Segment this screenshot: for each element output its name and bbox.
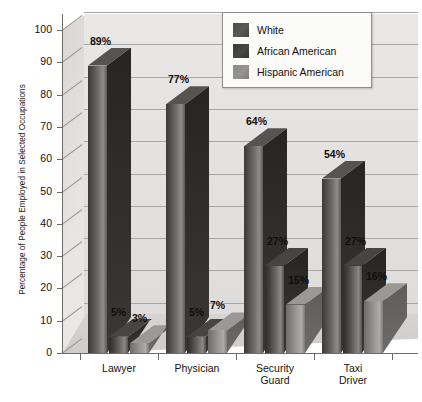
bar-value-label: 3%: [132, 312, 147, 324]
bar-front-face: [109, 337, 128, 353]
y-tick-mark: [57, 159, 63, 160]
legend-item: African American: [233, 42, 336, 60]
y-tick-label: 60: [22, 152, 52, 164]
y-axis-line: [62, 14, 63, 354]
bar-top-face: [265, 266, 284, 267]
bar-top-face: [166, 104, 185, 105]
bar-top-face: [109, 337, 128, 338]
y-tick-mark: [57, 321, 63, 322]
bar-value-label: 27%: [345, 235, 366, 247]
bar: [187, 337, 206, 353]
bar-front-face: [244, 146, 263, 353]
bar: [265, 266, 284, 353]
bar-value-label: 54%: [324, 148, 345, 160]
bar: [208, 330, 227, 353]
bar-front-face: [364, 301, 383, 353]
bar: [88, 66, 107, 353]
bar-front-face: [88, 66, 107, 353]
y-tick-mark: [57, 30, 63, 31]
bar-value-label: 7%: [210, 299, 225, 311]
legend-color-swatch: [233, 65, 249, 79]
bar-value-label: 15%: [288, 274, 309, 286]
y-tick-mark: [57, 62, 63, 63]
bar-top-face: [322, 179, 341, 180]
y-tick-label: 50: [22, 185, 52, 197]
legend-item-label: White: [257, 24, 284, 36]
x-category-label-line: Physician: [158, 363, 236, 375]
x-category-label: TaxiDriver: [314, 363, 392, 386]
bar-top-face: [208, 330, 227, 331]
bar-value-label: 77%: [168, 73, 189, 85]
x-axis-line: [62, 353, 418, 354]
bar-top-face: [364, 301, 383, 302]
bar-chart: Percentage of People Employed in Selecte…: [0, 0, 422, 402]
y-tick-mark: [57, 353, 63, 354]
y-tick-label: 40: [22, 217, 52, 229]
x-category-label: Lawyer: [80, 363, 158, 375]
bar-top-face: [343, 266, 362, 267]
y-tick-label: 90: [22, 55, 52, 67]
x-category-label: SecurityGuard: [236, 363, 314, 386]
bar-value-label: 27%: [267, 235, 288, 247]
bar-value-label: 5%: [189, 306, 204, 318]
x-tick-mark: [158, 354, 159, 360]
x-category-label-line: Guard: [236, 375, 314, 387]
y-tick-mark: [57, 192, 63, 193]
bar: [166, 104, 185, 353]
bar: [343, 266, 362, 353]
bar-value-label: 64%: [246, 115, 267, 127]
y-tick-mark: [57, 224, 63, 225]
chart-legend: WhiteAfrican AmericanHispanic American: [222, 12, 372, 88]
x-tick-mark: [314, 354, 315, 360]
bar: [109, 337, 128, 353]
bar-front-face: [265, 266, 284, 353]
bar-top-face: [187, 337, 206, 338]
bar-top-face: [130, 343, 149, 344]
bar-front-face: [322, 179, 341, 353]
legend-color-swatch: [233, 44, 249, 58]
y-tick-label: 20: [22, 281, 52, 293]
bar-top-face: [286, 305, 305, 306]
bar-front-face: [166, 104, 185, 353]
bar: [244, 146, 263, 353]
legend-color-swatch: [233, 23, 249, 37]
legend-item: Hispanic American: [233, 63, 344, 81]
bar-front-face: [208, 330, 227, 353]
bar-front-face: [187, 337, 206, 353]
y-tick-label: 0: [22, 346, 52, 358]
y-tick-mark: [57, 256, 63, 257]
y-tick-label: 80: [22, 88, 52, 100]
bar-value-label: 16%: [366, 270, 387, 282]
bar-top-face: [88, 66, 107, 67]
x-category-label: Physician: [158, 363, 236, 375]
bar-front-face: [343, 266, 362, 353]
x-category-label-line: Driver: [314, 375, 392, 387]
bar-top-face: [244, 146, 263, 147]
legend-item-label: Hispanic American: [257, 66, 344, 78]
y-tick-label: 70: [22, 120, 52, 132]
y-tick-label: 30: [22, 249, 52, 261]
bar-value-label: 89%: [90, 35, 111, 47]
bar-front-face: [130, 343, 149, 353]
y-tick-mark: [57, 127, 63, 128]
bar: [322, 179, 341, 353]
bar-value-label: 5%: [111, 306, 126, 318]
legend-item-label: African American: [257, 45, 336, 57]
x-category-label-line: Security: [236, 363, 314, 375]
legend-item: White: [233, 21, 284, 39]
y-tick-mark: [57, 288, 63, 289]
y-tick-label: 100: [22, 23, 52, 35]
bar: [130, 343, 149, 353]
y-tick-label: 10: [22, 314, 52, 326]
gridline: [84, 109, 418, 110]
x-tick-mark: [80, 354, 81, 360]
x-tick-mark: [236, 354, 237, 360]
x-category-label-line: Taxi: [314, 363, 392, 375]
x-tick-mark: [392, 354, 393, 360]
bar: [364, 301, 383, 353]
y-tick-mark: [57, 95, 63, 96]
bar-front-face: [286, 305, 305, 353]
bar: [286, 305, 305, 353]
x-category-label-line: Lawyer: [80, 363, 158, 375]
